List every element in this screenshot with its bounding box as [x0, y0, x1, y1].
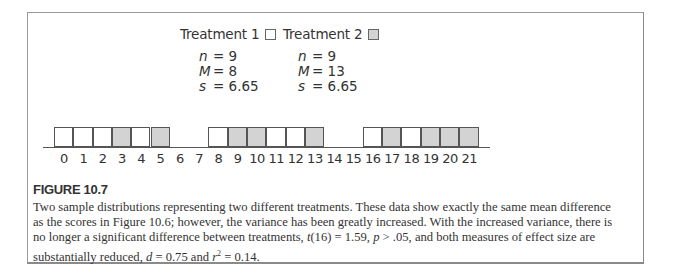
legend-treatment-1: Treatment 1 — [180, 26, 276, 42]
sd-symbol: s — [199, 79, 213, 94]
n-value: = 9 — [213, 48, 237, 64]
x-tick-label: 3 — [112, 151, 132, 166]
score-block — [112, 127, 131, 147]
mean-value: = 8 — [213, 63, 237, 79]
x-tick-label: 1 — [73, 151, 93, 166]
x-tick-label: 16 — [363, 151, 383, 166]
x-tick-label: 9 — [228, 151, 248, 166]
score-block — [421, 127, 440, 147]
treatment-2-stats: n= 9 M= 13 s= 6.65 — [298, 49, 358, 94]
n-symbol: n — [298, 49, 312, 64]
score-block — [401, 127, 420, 147]
x-tick-label: 14 — [324, 151, 344, 166]
x-tick-label: 18 — [401, 151, 421, 166]
mean-symbol: M — [199, 64, 213, 79]
legend-treatment-2: Treatment 2 — [283, 26, 379, 42]
x-tick-label: 11 — [266, 151, 286, 166]
mean-value: = 13 — [312, 63, 345, 79]
gray-swatch-icon — [368, 29, 379, 40]
x-tick-label: 4 — [131, 151, 151, 166]
score-block — [305, 127, 324, 147]
score-block — [247, 127, 266, 147]
score-block — [131, 127, 150, 147]
x-tick-label: 8 — [208, 151, 228, 166]
x-tick-label: 15 — [344, 151, 364, 166]
score-block — [363, 127, 382, 147]
legend-label: Treatment 1 — [180, 26, 259, 42]
x-tick-label: 7 — [189, 151, 209, 166]
score-block — [266, 127, 285, 147]
sd-value: = 6.65 — [312, 78, 358, 94]
white-swatch-icon — [265, 29, 276, 40]
score-block — [93, 127, 112, 147]
score-block — [54, 127, 73, 147]
score-block — [73, 127, 92, 147]
figure-caption: Two sample distributions representing tw… — [33, 200, 623, 265]
x-tick-label: 5 — [151, 151, 171, 166]
x-tick-label: 19 — [421, 151, 441, 166]
x-tick-label: 0 — [54, 151, 74, 166]
score-block — [459, 127, 478, 147]
x-tick-label: 20 — [440, 151, 460, 166]
figure-title: FIGURE 10.7 — [33, 182, 108, 197]
x-axis — [43, 147, 490, 148]
score-block — [440, 127, 459, 147]
score-block — [286, 127, 305, 147]
x-tick-label: 2 — [93, 151, 113, 166]
score-block — [228, 127, 247, 147]
sd-value: = 6.65 — [213, 78, 259, 94]
n-symbol: n — [199, 49, 213, 64]
x-tick-label: 13 — [305, 151, 325, 166]
mean-symbol: M — [298, 64, 312, 79]
score-block — [208, 127, 227, 147]
x-tick-label: 17 — [382, 151, 402, 166]
score-block — [382, 127, 401, 147]
treatment-1-stats: n= 9 M= 8 s= 6.65 — [199, 49, 259, 94]
sd-symbol: s — [298, 79, 312, 94]
legend-label: Treatment 2 — [283, 26, 362, 42]
score-block — [151, 127, 170, 147]
x-tick-label: 12 — [286, 151, 306, 166]
n-value: = 9 — [312, 48, 336, 64]
x-tick-label: 6 — [170, 151, 190, 166]
x-tick-label: 21 — [459, 151, 479, 166]
x-tick-label: 10 — [247, 151, 267, 166]
